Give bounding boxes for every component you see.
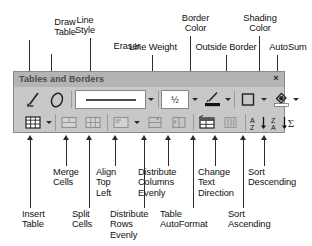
- chevron-down-icon: [46, 121, 52, 124]
- sort-ascending-icon: A Z: [249, 115, 268, 131]
- callout-label-table-autoformat: Table AutoFormat: [160, 209, 232, 230]
- border-color-dropdown-arrow[interactable]: [223, 90, 232, 109]
- table-autoformat-button[interactable]: [196, 113, 218, 132]
- svg-text:A: A: [250, 116, 255, 123]
- callout-label-line-style: Line Style: [64, 15, 106, 36]
- split-cells-button[interactable]: [82, 113, 104, 132]
- insert-table-icon: [24, 115, 42, 130]
- svg-text:Z: Z: [250, 123, 255, 130]
- merge-cells-icon: [60, 115, 78, 130]
- distribute-columns-evenly-button[interactable]: [168, 113, 190, 132]
- line-style-preview-icon: [82, 95, 140, 105]
- table-autoformat-icon: [198, 115, 216, 130]
- leader-line-change-text-direction: [215, 140, 216, 166]
- line-style-dropdown-arrow[interactable]: [146, 90, 155, 109]
- diagram-canvas: Draw Table Eraser Line Style Line Weight…: [0, 0, 312, 246]
- distribute-rows-icon: [146, 115, 164, 130]
- outside-border-button[interactable]: [237, 90, 259, 109]
- leader-line-align-top-left: [115, 140, 116, 166]
- chevron-down-icon: [261, 98, 267, 101]
- callout-label-border-color: Border Color: [173, 13, 218, 34]
- callout-label-merge-cells: Merge Cells: [53, 167, 95, 188]
- callout-label-outside-border: Outside Border: [189, 42, 263, 52]
- toolbar-separator: [234, 91, 235, 108]
- callout-label-change-text-direction: Change Text Direction: [198, 167, 252, 198]
- chevron-down-icon: [134, 121, 140, 124]
- eraser-button[interactable]: [46, 90, 68, 109]
- change-text-direction-button[interactable]: [220, 113, 242, 132]
- toolbar-separator: [55, 114, 56, 131]
- chevron-down-icon: [225, 98, 231, 101]
- toolbar-separator: [158, 91, 159, 108]
- split-cells-icon: [84, 115, 102, 130]
- outside-border-icon: [240, 92, 256, 107]
- leader-line-sort-descending: [264, 140, 265, 166]
- close-icon[interactable]: ×: [271, 73, 281, 84]
- leader-line-distribute-columns-evenly: [168, 140, 169, 166]
- line-style-combo[interactable]: [75, 90, 146, 109]
- toolbar-separator: [193, 114, 194, 131]
- leader-line-insert-table: [30, 140, 31, 208]
- callout-label-sort-ascending: Sort Ascending: [228, 209, 286, 230]
- toolbar-separator: [245, 114, 246, 131]
- toolbar-title: Tables and Borders: [19, 74, 104, 84]
- draw-table-button[interactable]: [22, 90, 44, 109]
- callout-label-distribute-columns-evenly: Distribute Columns Evenly: [138, 167, 198, 198]
- leader-line-merge-cells: [66, 140, 67, 166]
- callout-label-insert-table: Insert Table: [22, 209, 66, 230]
- leader-line-shading-color: [259, 36, 260, 74]
- callout-label-align-top-left: Align Top Left: [96, 167, 132, 198]
- border-color-button[interactable]: [201, 90, 223, 109]
- insert-table-dropdown-arrow[interactable]: [44, 113, 53, 132]
- border-color-pen-icon: [203, 91, 222, 108]
- distribute-rows-evenly-button[interactable]: [144, 113, 166, 132]
- callout-label-split-cells: Split Cells: [72, 209, 114, 230]
- callout-label-shading-color: Shading Color: [236, 13, 284, 34]
- toolbar-row-2: A Z Z A Σ: [14, 111, 284, 134]
- tables-and-borders-toolbar: Tables and Borders ×: [13, 71, 285, 133]
- toolbar-separator: [107, 114, 108, 131]
- shading-color-button[interactable]: [270, 90, 292, 109]
- merge-cells-button[interactable]: [58, 113, 80, 132]
- distribute-columns-icon: [170, 115, 188, 130]
- align-top-left-button[interactable]: [110, 113, 132, 132]
- chevron-down-icon: [192, 98, 198, 101]
- line-weight-dropdown-arrow[interactable]: [190, 90, 199, 109]
- sigma-icon: Σ: [288, 117, 294, 129]
- pencil-icon: [24, 92, 42, 108]
- toolbar-titlebar[interactable]: Tables and Borders ×: [14, 72, 284, 87]
- chevron-down-icon: [148, 98, 154, 101]
- callout-label-sort-descending: Sort Descending: [248, 167, 310, 188]
- shading-color-dropdown-arrow[interactable]: [291, 90, 300, 109]
- chevron-down-icon: [293, 98, 299, 101]
- svg-text:A: A: [271, 123, 276, 130]
- toolbar-row-1: ½: [14, 88, 284, 111]
- toolbar-separator: [71, 91, 72, 108]
- change-text-direction-icon: [222, 115, 240, 130]
- svg-text:Z: Z: [271, 116, 276, 123]
- align-dropdown-arrow[interactable]: [132, 113, 141, 132]
- line-weight-combo[interactable]: ½: [161, 90, 189, 109]
- eraser-icon: [48, 92, 66, 108]
- insert-table-button[interactable]: [22, 113, 44, 132]
- align-top-left-icon: [112, 115, 130, 130]
- paint-bucket-icon: [272, 91, 291, 108]
- callout-label-autosum: AutoSum: [265, 42, 311, 52]
- outside-border-dropdown-arrow[interactable]: [259, 90, 268, 109]
- sort-ascending-button[interactable]: A Z: [248, 113, 269, 132]
- line-weight-value: ½: [171, 95, 179, 105]
- callout-label-line-weight: Line Weight: [118, 42, 188, 52]
- autosum-button[interactable]: Σ: [282, 113, 300, 132]
